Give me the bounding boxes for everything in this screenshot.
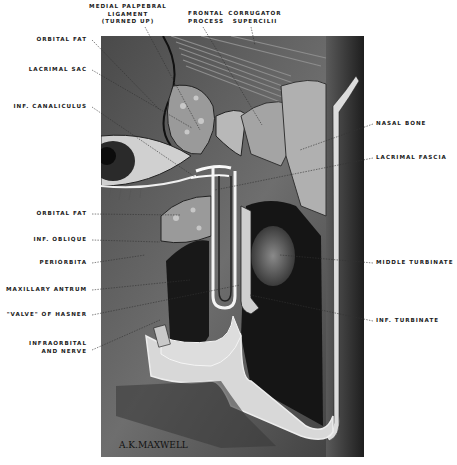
label-line: ORBITAL FAT <box>36 210 87 218</box>
label-line: ORBITAL FAT <box>36 36 87 44</box>
label-line: INFRAORBITAL <box>29 340 87 348</box>
label-inf-canaliculus: INF. CANALICULUS <box>13 103 87 111</box>
label-orbital-fat-upper: ORBITAL FAT <box>36 36 87 44</box>
illustration-svg: A.K.MAXWELL <box>101 36 364 457</box>
label-inf-turbinate: INF. TURBINATE <box>376 317 439 325</box>
anatomical-illustration: A.K.MAXWELL <box>101 36 364 457</box>
label-line: INF. CANALICULUS <box>13 103 87 111</box>
label-middle-turbinate: MIDDLE TURBINATE <box>376 259 454 267</box>
label-line: (TURNED UP) <box>88 18 168 26</box>
label-line: "VALVE" OF HASNER <box>7 311 87 319</box>
label-line: LACRIMAL FASCIA <box>376 154 447 162</box>
label-medial-palpebral-ligament: MEDIAL PALPEBRAL LIGAMENT (TURNED UP) <box>88 3 168 26</box>
label-line: INF. OBLIQUE <box>33 236 87 244</box>
label-inf-oblique: INF. OBLIQUE <box>33 236 87 244</box>
label-line: SUPERCILII <box>220 18 290 26</box>
label-line: LACRIMAL SAC <box>29 66 87 74</box>
label-line: MAXILLARY ANTRUM <box>6 286 87 294</box>
label-orbital-fat-lower: ORBITAL FAT <box>36 210 87 218</box>
label-periorbita: PERIORBITA <box>40 259 87 267</box>
label-nasal-bone: NASAL BONE <box>376 120 426 128</box>
label-line: AND NERVE <box>29 348 87 356</box>
label-corrugator-supercilii: CORRUGATOR SUPERCILII <box>220 10 290 25</box>
label-line: INF. TURBINATE <box>376 317 439 325</box>
label-line: CORRUGATOR <box>220 10 290 18</box>
label-maxillary-antrum: MAXILLARY ANTRUM <box>6 286 87 294</box>
artist-signature: A.K.MAXWELL <box>118 440 188 450</box>
label-line: PERIORBITA <box>40 259 87 267</box>
label-line: MEDIAL PALPEBRAL <box>88 3 168 11</box>
label-lacrimal-fascia: LACRIMAL FASCIA <box>376 154 447 162</box>
label-line: NASAL BONE <box>376 120 426 128</box>
label-valve-of-hasner: "VALVE" OF HASNER <box>7 311 87 319</box>
label-lacrimal-sac: LACRIMAL SAC <box>29 66 87 74</box>
label-infraorbital-and-nerve: INFRAORBITAL AND NERVE <box>29 340 87 355</box>
label-line: LIGAMENT <box>88 11 168 19</box>
label-line: MIDDLE TURBINATE <box>376 259 454 267</box>
